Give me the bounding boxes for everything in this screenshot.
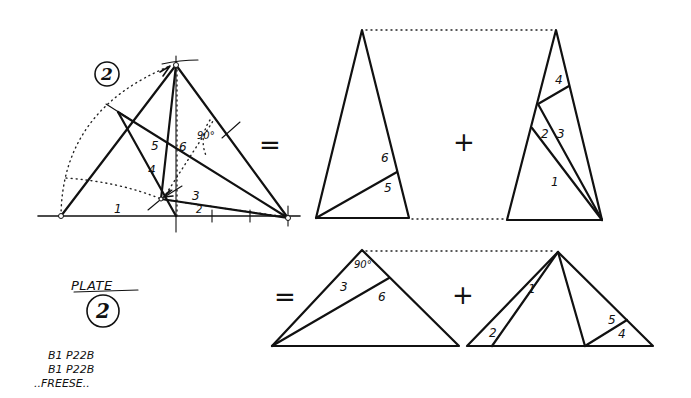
top-left-piece: 6 5: [316, 30, 409, 218]
step-number: 2: [100, 64, 113, 84]
note-line: B1 P22B: [48, 349, 94, 362]
vertex-node: [286, 216, 291, 221]
piece-label: 1: [551, 175, 559, 189]
tall-triangle: [507, 30, 602, 220]
equals-sign: =: [259, 130, 281, 160]
piece-label: 1: [114, 202, 122, 216]
bottom-left-piece: 90° 3 6: [272, 250, 459, 346]
piece-label: 2: [489, 326, 497, 340]
plate-number: 2: [95, 299, 110, 323]
bottom-right-piece: 1 2 5 4: [467, 252, 653, 346]
piece-label: 3: [557, 127, 565, 141]
equals-sign: =: [274, 282, 296, 312]
apex-arc: [162, 60, 198, 64]
dissection-diagram: 2 1 2 3 4 5 6 90° = 6 5 + 4 2 3 1 = 90° …: [0, 0, 691, 398]
piece-label: 5: [384, 181, 392, 195]
piece-label: 2: [196, 204, 202, 215]
cut-line-left-to-right: [118, 112, 288, 218]
vertex-node: [159, 197, 163, 201]
dotted-arc-inner: [66, 178, 161, 199]
plate-label: PLATE 2: [71, 278, 138, 327]
cut-line: [492, 252, 558, 346]
tall-triangle: [316, 30, 409, 218]
note-line: B1 P22B: [48, 363, 94, 376]
piece-label: 6: [179, 140, 187, 154]
note-line: ..FREESE..: [34, 377, 90, 390]
top-right-piece: 4 2 3 1: [507, 30, 602, 220]
piece-label: 1: [528, 282, 536, 296]
cut-line: [538, 86, 569, 104]
cut-line-apex-inner: [161, 65, 176, 199]
cut-line: [316, 172, 397, 218]
cross-mark: [106, 104, 128, 118]
piece-label: 5: [608, 313, 616, 327]
piece-label: 6: [381, 151, 389, 165]
vertex-node: [59, 214, 64, 219]
piece-label: 5: [151, 139, 159, 153]
cut-line-inner-right: [161, 199, 288, 218]
cut-line: [538, 104, 602, 220]
piece-label: 3: [340, 280, 348, 294]
plus-sign: +: [452, 280, 474, 310]
piece-label: 6: [378, 290, 386, 304]
piece-label: 4: [148, 163, 156, 177]
angle-label: 90°: [354, 259, 372, 270]
piece-label: 4: [618, 327, 626, 341]
vertex-node: [174, 63, 179, 68]
piece-label: 3: [192, 189, 200, 203]
angle-label: 90°: [197, 130, 215, 141]
piece-label: 4: [555, 73, 563, 87]
plus-sign: +: [453, 127, 475, 157]
piece-label: 2: [541, 127, 549, 141]
